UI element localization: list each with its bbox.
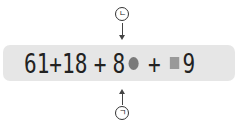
digit-8: 8 [113,48,126,79]
arrow-down-icon [119,35,125,40]
plus-sign: + [94,48,107,79]
plus-sign: + [49,48,62,79]
expression: 61 + 18 + 8 + 9 [24,47,195,79]
digit-9: 9 [182,48,195,79]
unknown-square-digit [170,57,179,69]
unknown-circle-digit [128,57,138,70]
number-18: 18 [62,48,87,79]
arrow-up-line [122,93,123,105]
marker-bottom-label: ㄱ [115,106,129,120]
marker-top-label: ㄴ [115,7,129,21]
plus-sign: + [148,48,161,79]
number-61: 61 [24,48,49,79]
